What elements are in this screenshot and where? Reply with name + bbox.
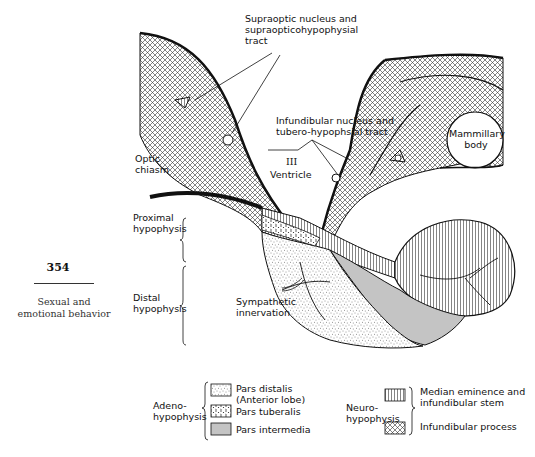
- label-distal-hypophysis: Distal hypophysis: [133, 292, 187, 314]
- legend-neuro-group: Neuro- hypophysis: [346, 402, 400, 424]
- legend-median-eminence: Median eminence and infundibular stem: [420, 386, 525, 408]
- legend-pars-intermedia: Pars intermedia: [236, 424, 311, 435]
- label-mammillary-body: Mammillary body: [449, 128, 503, 150]
- label-third-ventricle: Ventricle: [270, 169, 312, 180]
- swatch-pars-distalis: [211, 384, 231, 396]
- page-divider: [34, 283, 94, 284]
- legend-pars-tuberalis: Pars tuberalis: [236, 406, 301, 417]
- label-third-ventricle-numeral: III: [286, 156, 297, 167]
- swatch-pars-tuberalis: [211, 405, 231, 417]
- label-sympathetic-innervation: Sympathetic innervation: [236, 296, 296, 318]
- label-infundibular-nucleus: Infundibular nucleus and tubero-hypophsi…: [276, 115, 394, 137]
- legend-adeno-group: Adeno- hypophysis: [153, 400, 207, 422]
- label-proximal-hypophysis: Proximal hypophysis: [133, 212, 187, 234]
- page-caption: Sexual and emotional behavior: [8, 296, 120, 320]
- label-optic-chiasm: Optic chiasm: [135, 153, 169, 175]
- page-number: 354: [28, 261, 88, 274]
- swatch-pars-intermedia: [211, 423, 231, 435]
- label-supraoptic-nucleus: Supraoptic nucleus and supraopticohypoph…: [245, 13, 358, 46]
- legend-pars-distalis: Pars distalis (Anterior lobe): [236, 383, 305, 405]
- swatch-median-eminence: [385, 389, 405, 401]
- legend-infundibular-process: Infundibular process: [420, 421, 517, 432]
